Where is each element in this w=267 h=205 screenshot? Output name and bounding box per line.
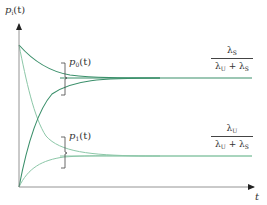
p0-label: p0(t)	[69, 57, 91, 68]
upper-fraction-numerator: λS	[209, 46, 255, 58]
num-sub: S	[233, 49, 237, 56]
plus-sign: +	[226, 61, 239, 71]
y-axis-label-arg: (t)	[13, 4, 25, 15]
x-axis-label-text: t	[255, 191, 259, 202]
chart-canvas	[0, 0, 267, 205]
lower-fraction-numerator: λU	[209, 124, 255, 136]
upper-fraction-denominator: λU + λS	[209, 59, 255, 72]
y-axis-label: pi(t)	[5, 5, 25, 16]
upper-asymptote-fraction: λS λU + λS	[209, 46, 255, 72]
lower-asymptote-fraction: λU λU + λS	[209, 124, 255, 150]
lower-fraction-denominator: λU + λS	[209, 137, 255, 150]
plus-sign: +	[226, 139, 239, 149]
p1-label: p1(t)	[69, 131, 91, 142]
den-sub-b: S	[245, 143, 249, 150]
p1-rise-curve	[19, 156, 160, 187]
den-sub-b: S	[245, 65, 249, 72]
p1-bracket	[61, 137, 67, 168]
num-sub: U	[232, 127, 237, 134]
p0-bracket	[61, 63, 67, 95]
p1-label-arg: (t)	[79, 130, 91, 141]
p0-label-arg: (t)	[79, 56, 91, 67]
x-axis-label: t	[255, 192, 259, 202]
